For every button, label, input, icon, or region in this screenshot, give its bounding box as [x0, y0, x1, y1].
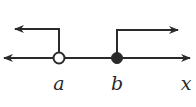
- ray-left-from-a: [15, 29, 59, 52]
- closed-dot-b: [112, 53, 123, 64]
- axis-label-x: x: [181, 72, 192, 94]
- open-circle-a: [54, 53, 65, 64]
- label-b: b: [111, 72, 123, 94]
- label-a: a: [53, 72, 64, 94]
- ray-right-from-b: [117, 30, 178, 58]
- number-line-diagram: a b x: [0, 0, 196, 107]
